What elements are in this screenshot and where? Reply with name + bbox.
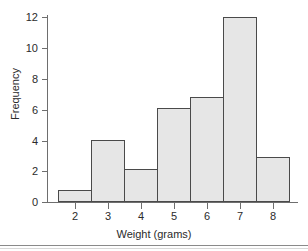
y-axis-tick-10 [42,48,48,49]
x-axis-tick-label-7: 7 [225,211,255,222]
y-axis-tick-6 [42,110,48,111]
x-axis-tick-6 [207,203,208,209]
bar-bin-2 [58,190,92,202]
y-axis-line [47,15,48,203]
y-axis-tick-4 [42,141,48,142]
plot-area [58,17,290,202]
x-axis-tick-label-6: 6 [192,211,222,222]
x-axis-tick-label-4: 4 [126,211,156,222]
x-axis-tick-label-5: 5 [159,211,189,222]
x-axis-tick-label-2: 2 [60,211,90,222]
x-axis-tick-3 [108,203,109,209]
x-axis-line [47,202,298,203]
x-axis-tick-7 [240,203,241,209]
bottom-divider [0,245,308,246]
x-axis-tick-label-3: 3 [93,211,123,222]
x-axis-tick-8 [273,203,274,209]
y-axis-tick-12 [42,17,48,18]
y-axis-tick-8 [42,79,48,80]
x-axis-tick-4 [141,203,142,209]
bar-bin-7 [223,17,257,202]
bar-bin-8 [256,157,290,202]
y-axis-tick-label-2: 2 [0,166,38,177]
x-axis-title: Weight (grams) [0,228,308,240]
y-axis-tick-2 [42,171,48,172]
x-axis-tick-2 [75,203,76,209]
bar-bin-4 [124,169,158,202]
x-axis-tick-label-8: 8 [258,211,288,222]
histogram-figure: 12 10 8 6 4 2 0 Frequency 2 3 4 5 6 7 8 … [0,0,308,251]
bottom-divider-shadow [0,248,308,249]
y-axis-tick-label-12: 12 [0,12,38,23]
bar-bin-6 [190,97,224,202]
y-axis-title: Frequency [9,49,21,139]
y-axis-tick-label-0: 0 [0,197,38,208]
x-axis-tick-5 [174,203,175,209]
bar-bin-5 [157,108,191,202]
bar-bin-3 [91,140,125,202]
